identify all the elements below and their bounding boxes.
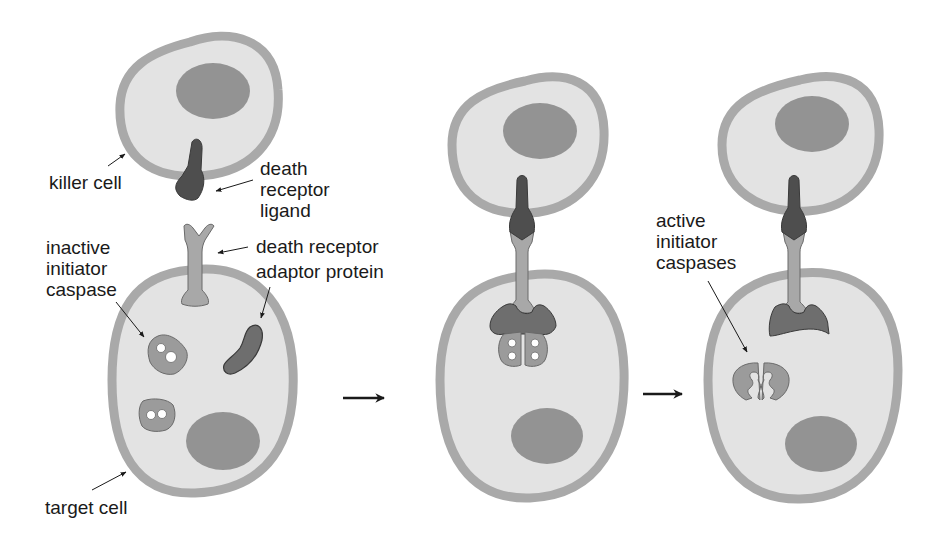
label-inactive-initiator-caspase: inactive initiator caspase: [46, 237, 117, 300]
label-death-receptor-ligand: death receptor ligand: [260, 158, 330, 221]
label-active-initiator-caspases: active initiator caspases: [656, 210, 736, 273]
label-target-cell: target cell: [45, 497, 127, 518]
killer-cell: [722, 77, 879, 212]
panel-3: [708, 77, 898, 500]
killer-cell: [452, 77, 604, 213]
receptor-pointer: [218, 247, 248, 253]
target-nucleus: [186, 412, 260, 470]
ligand-pointer: [216, 180, 253, 191]
panel-2: [440, 77, 624, 498]
killer-cell-pointer: [108, 154, 125, 166]
apoptosis-diagram: [0, 0, 940, 534]
killer-nucleus: [503, 103, 577, 159]
label-death-receptor: death receptor: [256, 236, 379, 257]
label-killer-cell: killer cell: [49, 172, 122, 193]
target-nucleus: [511, 408, 583, 464]
target-cell-pointer: [92, 472, 126, 490]
killer-nucleus: [775, 96, 849, 152]
killer-nucleus: [176, 63, 250, 119]
label-adaptor-protein: adaptor protein: [256, 261, 384, 282]
target-nucleus: [785, 416, 857, 472]
inactive-caspase: [139, 399, 175, 431]
